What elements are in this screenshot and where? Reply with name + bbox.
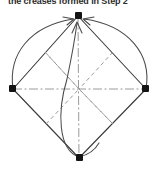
axis-vertical — [78, 16, 79, 158]
axis-group — [13, 16, 146, 158]
vertex-group — [9, 12, 149, 161]
top-vertex — [75, 12, 82, 19]
fold-diagram-svg — [0, 0, 158, 174]
arrow-left-to-top — [12, 19, 73, 89]
left-vertex — [9, 85, 16, 92]
arrow-right-to-top — [84, 19, 147, 89]
fold-arrow-group — [12, 17, 147, 157]
right-vertex — [142, 85, 149, 92]
crease-diag-upper-left-long — [45, 52, 79, 89]
crease-lower-left — [46, 89, 79, 124]
arrow-bottom-to-top — [61, 23, 79, 157]
crease-upper-right — [79, 52, 113, 89]
paper-outline-group — [13, 16, 146, 158]
origami-figure: the creases formed in Step 2 — [0, 0, 158, 174]
bottom-vertex — [76, 154, 83, 161]
